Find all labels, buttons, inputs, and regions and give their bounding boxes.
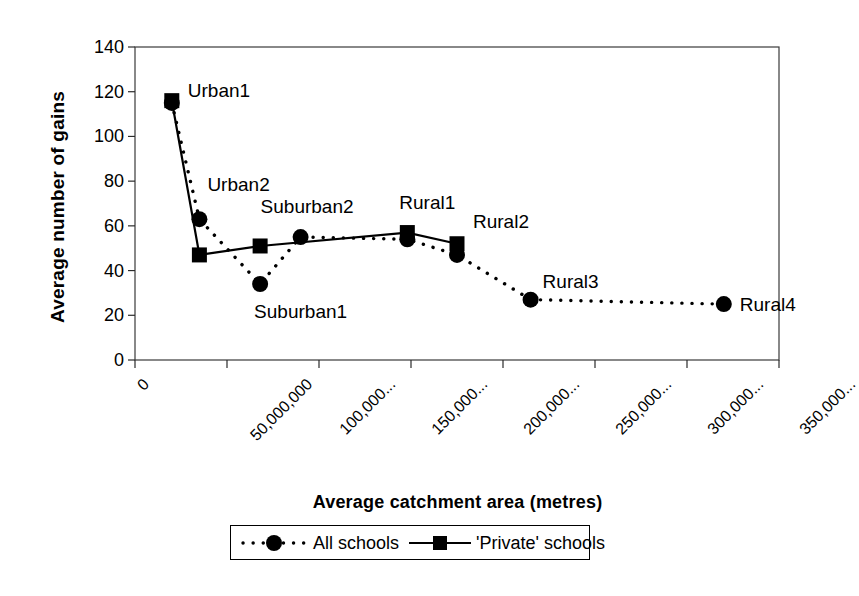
x-axis-ticks: [135, 360, 779, 368]
data-point-marker: [716, 296, 732, 312]
data-point-marker: [253, 238, 268, 253]
data-point-marker: [252, 276, 268, 292]
y-tick-label: 100: [72, 127, 124, 145]
y-tick-label: 80: [72, 172, 124, 190]
y-tick-label: 120: [72, 83, 124, 101]
data-point-marker: [400, 225, 415, 240]
data-point-marker: [523, 292, 539, 308]
point-label-urban2: Urban2: [207, 175, 269, 194]
y-tick-label: 140: [72, 38, 124, 56]
x-axis-title: Average catchment area (metres): [135, 492, 780, 513]
point-label-rural4: Rural4: [740, 295, 796, 314]
point-label-rural2: Rural2: [473, 212, 529, 231]
point-label-urban1: Urban1: [188, 81, 250, 100]
y-tick-label: 60: [72, 217, 124, 235]
data-point-marker: [164, 93, 179, 108]
y-tick-label: 20: [72, 306, 124, 324]
legend-item-private-schools: 'Private' schools: [476, 534, 605, 552]
legend-marker: [266, 535, 282, 551]
y-axis-ticks: [128, 47, 135, 360]
y-tick-label: 0: [72, 351, 124, 369]
legend-marker: [433, 536, 447, 550]
point-label-rural1: Rural1: [399, 193, 455, 212]
chart-legend: All schools 'Private' schools: [230, 525, 590, 560]
point-label-rural3: Rural3: [543, 272, 599, 291]
data-point-marker: [192, 247, 207, 262]
point-label-suburban1: Suburban1: [254, 302, 347, 321]
data-point-marker: [450, 236, 465, 251]
point-label-suburban2: Suburban2: [261, 197, 354, 216]
y-axis-title: Average number of gains: [47, 57, 69, 357]
y-tick-label: 40: [72, 262, 124, 280]
legend-item-all-schools: All schools: [313, 534, 399, 552]
